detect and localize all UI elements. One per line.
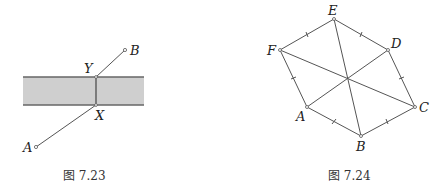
geometry-figures: A X Y B 图 7.23 A B C D E F 图 7.24 [0, 0, 446, 194]
label-c: C [419, 100, 429, 115]
caption-7-24: 图 7.24 [328, 169, 371, 183]
label-d: D [390, 36, 402, 51]
point-d [387, 49, 390, 52]
label-b: B [129, 43, 140, 58]
figure-7-24: A B C D E F 图 7.24 [266, 3, 429, 183]
label-a: A [22, 140, 32, 155]
point-b [360, 135, 363, 138]
point-b [123, 48, 126, 51]
point-c [414, 106, 417, 109]
river-strip [23, 77, 144, 105]
point-y [95, 76, 98, 79]
segment-yb [96, 50, 125, 77]
label-b: B [355, 139, 366, 154]
figure-7-23: A X Y B 图 7.23 [22, 43, 144, 183]
point-a [306, 106, 309, 109]
caption-7-23: 图 7.23 [63, 169, 106, 183]
diagonal-be [334, 19, 361, 136]
point-f [279, 49, 282, 52]
tick-ab [332, 119, 336, 124]
diagonal-cf [280, 50, 415, 107]
label-f: F [266, 43, 277, 58]
label-a: A [295, 109, 305, 124]
point-a [34, 145, 37, 148]
label-y: Y [84, 61, 94, 76]
label-x: X [94, 108, 105, 123]
label-e: E [327, 3, 338, 18]
point-x [95, 104, 98, 107]
segment-ax [36, 105, 96, 147]
